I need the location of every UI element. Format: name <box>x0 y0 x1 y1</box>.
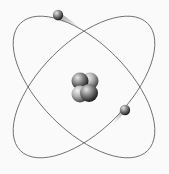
electron-bottom-right <box>120 105 130 115</box>
nucleon-front-right <box>80 84 98 102</box>
atom-illustration <box>0 0 169 174</box>
electron-top-left <box>53 10 63 20</box>
nucleus <box>72 73 99 103</box>
